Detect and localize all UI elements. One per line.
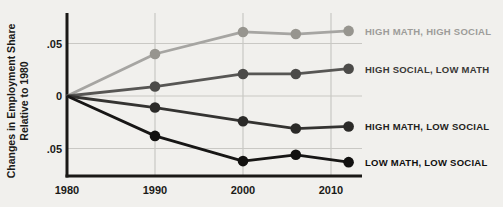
data-point-high-math-low-social — [238, 116, 249, 127]
series-line-high-social-low-math — [67, 69, 349, 96]
legend-label-low-math-low-social: LOW MATH, LOW SOCIAL — [365, 157, 500, 168]
data-point-low-math-low-social — [238, 156, 249, 167]
employment-share-line-chart: Changes in Employment Share Relative to … — [0, 0, 503, 207]
data-point-high-social-low-math — [238, 69, 249, 80]
x-tick-label: 1980 — [44, 183, 90, 197]
y-tick-label: .05 — [26, 37, 62, 51]
data-point-low-math-low-social — [291, 150, 302, 161]
data-point-low-math-low-social — [150, 131, 161, 142]
x-tick-label: 2010 — [308, 183, 354, 197]
legend-label-high-social-low-math: HIGH SOCIAL, LOW MATH — [365, 64, 500, 75]
y-axis-title-line1: Changes in Employment Share — [5, 11, 18, 191]
legend-label-high-math-low-social: HIGH MATH, LOW SOCIAL — [365, 121, 500, 132]
x-tick-label: 1990 — [132, 183, 178, 197]
legend-label-high-math-high-social: HIGH MATH, HIGH SOCIAL — [365, 26, 500, 37]
data-point-high-math-high-social — [291, 29, 302, 40]
data-point-high-social-low-math — [343, 63, 354, 74]
series-line-high-math-high-social — [67, 31, 349, 96]
series-line-high-math-low-social — [67, 96, 349, 129]
data-point-low-math-low-social — [343, 157, 354, 168]
x-tick-label: 2000 — [220, 183, 266, 197]
data-point-high-math-low-social — [291, 123, 302, 134]
data-point-high-social-low-math — [150, 81, 161, 92]
y-tick-label: .05 — [26, 142, 62, 156]
data-point-high-math-high-social — [238, 27, 249, 38]
data-point-high-social-low-math — [291, 69, 302, 80]
data-point-high-math-low-social — [343, 121, 354, 132]
data-point-high-math-high-social — [343, 26, 354, 37]
data-point-high-math-low-social — [150, 102, 161, 113]
y-tick-label: 0 — [26, 89, 62, 103]
data-point-high-math-high-social — [150, 49, 161, 60]
